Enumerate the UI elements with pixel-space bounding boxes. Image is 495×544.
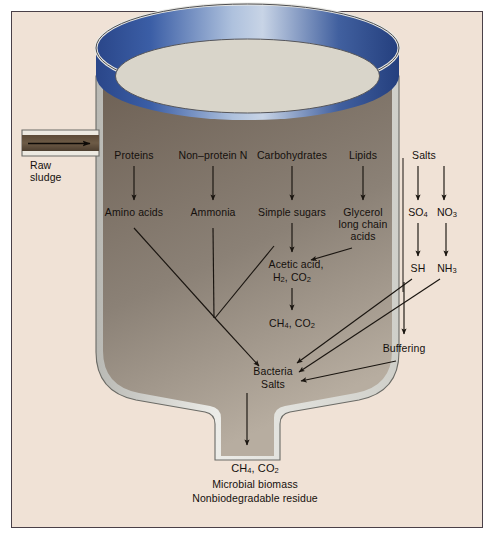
- label-long-chain: long chain: [339, 219, 388, 231]
- label-carbohydrates: Carbohydrates: [257, 150, 327, 162]
- label-sh: SH: [411, 263, 426, 275]
- label-output-gas: CH4, CO2: [231, 463, 279, 477]
- label-nh3: NH3: [437, 263, 457, 277]
- figure-root: Raw sludge Proteins Non–protein N Carboh…: [0, 0, 495, 544]
- label-output-residue: Nonbiodegradable residue: [192, 493, 318, 505]
- label-methane-mid: CH4, CO2: [269, 318, 315, 332]
- label-lipids: Lipids: [349, 150, 377, 162]
- label-proteins: Proteins: [114, 150, 153, 162]
- label-so4: SO4: [408, 207, 428, 221]
- label-h2-co2: H2, CO2: [273, 272, 311, 286]
- raw-sludge-label-line1: Raw: [30, 160, 51, 172]
- label-output-biomass: Microbial biomass: [212, 479, 298, 491]
- label-acetic-acid: Acetic acid,: [269, 259, 324, 271]
- raw-sludge-label-line2: sludge: [30, 172, 62, 184]
- label-acids: acids: [350, 231, 375, 243]
- tank-mouth-inner-ellipse: [116, 39, 380, 113]
- label-simple-sugars: Simple sugars: [258, 207, 326, 219]
- label-amino-acids: Amino acids: [105, 207, 163, 219]
- label-glycerol: Glycerol: [343, 207, 382, 219]
- label-no3: NO3: [437, 207, 457, 221]
- label-bacteria: Bacteria: [253, 366, 292, 378]
- label-non-protein-n: Non–protein N: [178, 150, 247, 162]
- label-salts-sink: Salts: [261, 379, 285, 391]
- raw-sludge-inlet: [22, 130, 99, 156]
- label-ammonia: Ammonia: [190, 207, 235, 219]
- label-buffering: Buffering: [383, 343, 426, 355]
- label-salts: Salts: [412, 150, 436, 162]
